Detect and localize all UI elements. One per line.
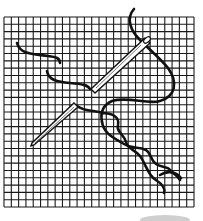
embroidery-illustration [0,0,203,221]
bottom-shadow [140,215,190,221]
